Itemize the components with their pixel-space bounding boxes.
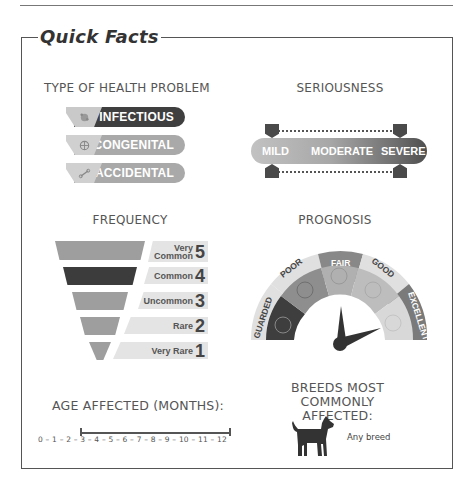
frequency-number: 2 [195, 318, 205, 334]
badge-label: INFECTIOUS [99, 110, 174, 124]
frequency-text: Rare [173, 322, 193, 330]
seriousness-label: SERIOUSNESS [280, 81, 400, 95]
frequency-level-5: VeryCommon 5 [148, 241, 208, 262]
age-range-end [229, 428, 231, 436]
frequency-bar-4 [63, 267, 137, 285]
age-range-bar [80, 432, 230, 434]
badge-accidental: ACCIDENTAL [74, 163, 185, 183]
frequency-level-2: Rare 2 [124, 317, 208, 334]
header-rule [20, 5, 453, 6]
frequency-text: Common [154, 272, 193, 280]
frequency-number: 5 [195, 244, 205, 260]
frequency-level-3: Uncommon 3 [138, 292, 208, 309]
frequency-number: 1 [195, 343, 205, 359]
age-scale: 0 – 1 – 2 – 3 – 4 – 5 – 6 – 7 – 8 – 9 – … [38, 435, 227, 444]
frequency-level-4: Common 4 [144, 267, 208, 284]
breeds-label: BREEDS MOSTCOMMONLY AFFECTED: [265, 381, 410, 423]
level-moderate: MODERATE [311, 145, 373, 157]
prognosis-gauge: GUARDED POOR FAIR GOOD EXCELLENT [243, 240, 433, 355]
dog-icon [290, 415, 336, 457]
frequency-text: VeryCommon [154, 244, 193, 260]
frequency-label: FREQUENCY [70, 213, 190, 227]
frequency-text: Uncommon [143, 297, 193, 305]
frequency-bar-2 [80, 317, 120, 335]
badge-infectious: INFECTIOUS [74, 107, 185, 127]
range-line-top [274, 130, 396, 132]
badge-label: CONGENITAL [94, 138, 174, 152]
badge-congenital: CONGENITAL [74, 135, 185, 155]
svg-text:FAIR: FAIR [331, 258, 350, 268]
frequency-number: 3 [195, 293, 205, 309]
panel-title: Quick Facts [38, 26, 161, 47]
frequency-level-1: Very Rare 1 [113, 342, 208, 359]
badge-label: ACCIDENTAL [95, 166, 174, 180]
health-problem-label: TYPE OF HEALTH PROBLEM [44, 81, 234, 95]
frequency-number: 4 [195, 268, 205, 284]
level-mild: MILD [262, 145, 289, 157]
range-line-bottom [274, 171, 396, 173]
frequency-text: Very Rare [151, 347, 193, 355]
level-severe: SEVERE [381, 145, 426, 157]
frequency-bar-5 [55, 241, 145, 260]
age-label: AGE AFFECTED (MONTHS): [48, 398, 228, 413]
prognosis-label: PROGNOSIS [290, 213, 380, 227]
breed-value: Any breed [347, 432, 391, 442]
frequency-bar-3 [72, 292, 128, 310]
